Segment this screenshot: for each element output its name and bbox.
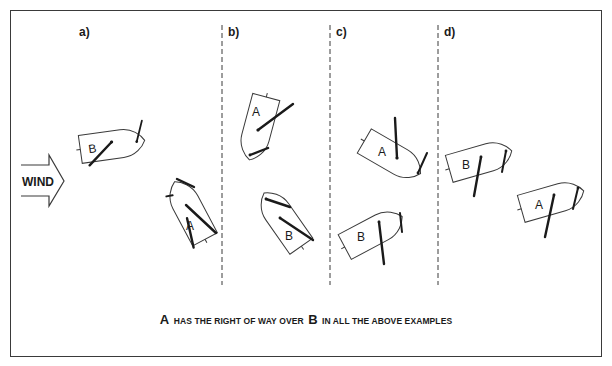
boat-letter-b-A: A (252, 105, 260, 119)
caption-boat-b: B (308, 312, 317, 327)
caption-boat-a: A (160, 312, 169, 327)
wind-label: WIND (22, 175, 54, 189)
boat-a-B: B (74, 121, 147, 167)
boat-letter-b-B: B (285, 229, 293, 243)
boat-letter-a-A: A (186, 219, 194, 233)
caption-text-1: HAS THE RIGHT OF WAY OVER (174, 316, 304, 326)
boat-letter-c-B: B (357, 230, 365, 244)
boat-letter-d-A: A (535, 198, 543, 212)
boat-c-A (354, 127, 428, 186)
caption: A HAS THE RIGHT OF WAY OVER B IN ALL THE… (0, 310, 612, 328)
boat-letter-c-A: A (378, 145, 386, 159)
wind-arrow-icon: WIND (21, 155, 64, 206)
boat-c-B (335, 204, 409, 261)
boat-letter-d-B: B (462, 158, 470, 172)
caption-text-2: IN ALL THE ABOVE EXAMPLES (322, 316, 452, 326)
sailing-right-of-way-diagram: a) b) c) d) WIND B (0, 0, 612, 366)
